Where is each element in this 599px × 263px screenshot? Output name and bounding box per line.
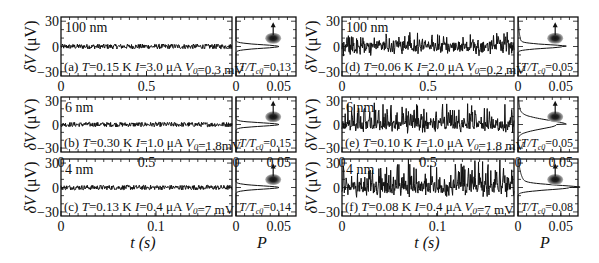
- y-tick-label: −30: [37, 205, 59, 220]
- conditions-label: (e) T=0.10 K I=1.0 μA V0=1.8 mV: [345, 135, 525, 153]
- vortex-blob-icon: [547, 22, 563, 44]
- y-tick-label: 30: [326, 156, 340, 171]
- vortex-blob-icon: [547, 101, 563, 123]
- voltage-trace: [61, 44, 232, 49]
- voltage-trace: [342, 32, 514, 56]
- voltage-trace: [61, 122, 232, 127]
- y-tick-label: −30: [318, 65, 340, 80]
- temperature-ratio-label: T/Tc0=0.05: [521, 60, 573, 76]
- x-tick-label: 0: [58, 219, 65, 234]
- histogram-panel: T/Tc0=0.1300.05: [233, 17, 297, 94]
- x-axis-label-left: t (s): [130, 234, 155, 252]
- thickness-label: 6 nm: [346, 100, 375, 115]
- x-tick-label: 0.1: [147, 219, 165, 234]
- hist-x-tick-label: 0.05: [549, 219, 574, 234]
- hist-x-tick-label: 0: [233, 79, 240, 94]
- thickness-label: 4 nm: [65, 162, 94, 177]
- y-tick-label: 0: [52, 118, 59, 133]
- histogram-panel: T/Tc0=0.0800.05: [515, 159, 581, 234]
- y-tick-label: 30: [326, 14, 340, 29]
- y-tick-label: 0: [333, 118, 340, 133]
- thickness-label: 6 nm: [65, 100, 94, 115]
- figure: δV (μV)δV (μV)δV (μV)δV (μV)δV (μV)δV (μ…: [0, 0, 599, 263]
- y-tick-label: 30: [45, 94, 59, 109]
- y-tick-label: 30: [45, 156, 59, 171]
- panel-c: 300−304 nm(c) T=0.13 K I=0.4 μA V0=7 mV0…: [37, 156, 296, 234]
- vortex-blob-icon: [265, 101, 281, 123]
- x-tick-label: 0.5: [419, 155, 437, 170]
- temperature-ratio-label: T/Tc0=0.05: [521, 136, 573, 152]
- y-tick-label: 0: [333, 181, 340, 196]
- panel-f: 300−304 nm(f) T=0.08 K I=0.4 μA V0=7 mV0…: [318, 156, 580, 234]
- hist-x-tick-label: 0: [233, 219, 240, 234]
- thickness-label: 100 nm: [65, 20, 108, 35]
- panel-d: 300−30100 nm(d) T=0.06 K I=2.0 μA V0=0.2…: [318, 14, 578, 94]
- conditions-label: (d) T=0.06 K I=2.0 μA V0=0.2 mV: [345, 59, 526, 77]
- temperature-ratio-label: T/Tc0=0.14: [239, 200, 291, 216]
- panel-a: 300−30100 nm(a) T=0.15 K I=3.0 μA V0=0.3…: [37, 14, 296, 94]
- hist-x-tick-label: 0.05: [267, 155, 292, 170]
- x-axis-label-right: t (s): [414, 234, 439, 252]
- conditions-label: (f) T=0.08 K I=0.4 μA V0=7 mV: [345, 199, 514, 217]
- x-tick-label: 0.1: [429, 219, 447, 234]
- y-tick-label: −30: [37, 141, 59, 156]
- y-tick-label: −30: [318, 205, 340, 220]
- histogram-panel: T/Tc0=0.1400.05: [233, 159, 297, 234]
- thickness-label: 4 nm: [346, 162, 375, 177]
- x-tick-label: 0: [339, 79, 346, 94]
- column-left: 300−30100 nm(a) T=0.15 K I=3.0 μA V0=0.3…: [37, 14, 296, 234]
- x-tick-label: 0.5: [138, 155, 156, 170]
- temperature-ratio-label: T/Tc0=0.08: [521, 200, 573, 216]
- conditions-label: (c) T=0.13 K I=0.4 μA V0=7 mV: [64, 199, 235, 217]
- voltage-trace: [61, 185, 232, 190]
- x-tick-label: 0: [339, 219, 346, 234]
- hist-axis-label-left: P: [256, 234, 267, 251]
- hist-x-tick-label: 0: [515, 219, 522, 234]
- y-tick-label: 30: [45, 14, 59, 29]
- thickness-label: 100 nm: [346, 20, 389, 35]
- y-tick-label: 0: [52, 40, 59, 55]
- y-tick-label: −30: [318, 141, 340, 156]
- x-tick-label: 0.5: [419, 79, 437, 94]
- hist-x-tick-label: 0.05: [549, 155, 574, 170]
- hist-x-tick-label: 0.05: [549, 79, 574, 94]
- conditions-label: (a) T=0.15 K I=3.0 μA V0=0.3 mV: [64, 59, 244, 77]
- temperature-ratio-label: T/Tc0=0.13: [239, 60, 291, 76]
- y-tick-label: −30: [37, 65, 59, 80]
- column-right: 300−30100 nm(d) T=0.06 K I=2.0 μA V0=0.2…: [318, 14, 580, 234]
- y-tick-label: 0: [52, 181, 59, 196]
- vortex-blob-icon: [265, 22, 281, 44]
- x-tick-label: 0: [58, 79, 65, 94]
- hist-x-tick-label: 0.05: [267, 219, 292, 234]
- y-tick-label: 0: [333, 40, 340, 55]
- hist-axis-label-right: P: [539, 234, 550, 251]
- temperature-ratio-label: T/Tc0=0.15: [239, 136, 291, 152]
- y-tick-label: 30: [326, 94, 340, 109]
- hist-x-tick-label: 0.05: [267, 79, 292, 94]
- hist-x-tick-label: 0: [515, 79, 522, 94]
- histogram-panel: T/Tc0=0.0500.05: [515, 17, 579, 94]
- conditions-label: (b) T=0.30 K I=1.0 μA V0=1.8mV: [64, 135, 242, 153]
- x-tick-label: 0.5: [138, 79, 156, 94]
